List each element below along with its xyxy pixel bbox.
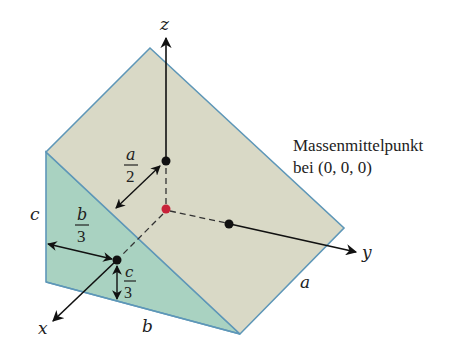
svg-text:a: a xyxy=(126,145,136,164)
dim-b-label: b xyxy=(142,316,153,336)
svg-text:2: 2 xyxy=(126,167,135,186)
wedge-center-of-mass-diagram: z y x a b c a 2 b 3 c 3 Massenmittelpunk… xyxy=(0,0,473,358)
svg-text:c: c xyxy=(125,263,134,281)
center-of-mass-caption-line2: bei (0, 0, 0) xyxy=(293,158,372,177)
side-face-point xyxy=(113,256,122,265)
x-axis-label: x xyxy=(38,318,48,338)
center-of-mass-point xyxy=(162,205,171,214)
svg-text:b: b xyxy=(77,205,87,224)
svg-text:3: 3 xyxy=(124,284,132,301)
center-of-mass-caption-line1: Massenmittelpunkt xyxy=(293,136,424,155)
z-axis-label: z xyxy=(159,14,170,34)
dim-a-label: a xyxy=(300,272,310,292)
top-face-point xyxy=(162,157,171,166)
svg-text:3: 3 xyxy=(77,227,86,246)
dim-c-label: c xyxy=(30,204,40,224)
y-axis-point xyxy=(225,220,234,229)
y-axis-label: y xyxy=(361,242,372,262)
